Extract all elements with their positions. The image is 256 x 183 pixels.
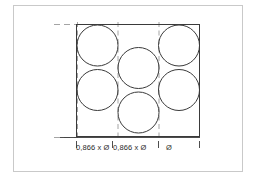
dimension-label-second: 0,866 x Ø	[113, 144, 146, 152]
circle-group	[77, 25, 200, 133]
drawing-canvas: 0,866 x Ø 0,866 x Ø Ø	[0, 0, 256, 183]
circle-top-left	[77, 25, 118, 66]
packing-rectangle	[77, 25, 200, 137]
circle-bottom-left	[77, 70, 118, 111]
dimension-label-first: 0,866 x Ø	[76, 144, 109, 152]
dimension-label-diameter: Ø	[166, 144, 172, 152]
circle-lower-mid	[118, 92, 159, 133]
circle-middle	[118, 48, 159, 89]
dashed-extension-lines	[54, 25, 78, 138]
circle-top-right	[159, 25, 200, 66]
dashed-construction-lines	[78, 22, 160, 140]
technical-drawing	[0, 0, 256, 183]
circle-bottom-right	[159, 70, 200, 111]
